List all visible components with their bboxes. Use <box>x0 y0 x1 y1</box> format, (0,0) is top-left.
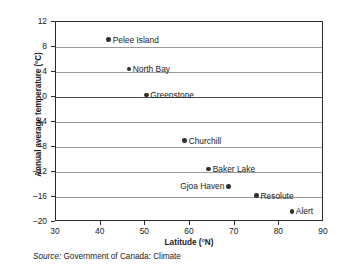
data-point-label: Pelee Island <box>113 36 159 44</box>
y-tick-label: –12 <box>13 167 47 175</box>
y-tick-label: –8 <box>13 142 47 150</box>
y-tick-label: 12 <box>13 17 47 25</box>
x-tick-mark <box>144 221 145 225</box>
data-point-marker <box>127 67 132 72</box>
y-tick-label: 8 <box>13 42 47 50</box>
data-point-label: Baker Lake <box>213 165 255 173</box>
y-tick-label: –4 <box>13 117 47 125</box>
data-point-marker <box>182 138 187 143</box>
source-label: Source: <box>33 252 61 261</box>
data-point-marker <box>206 167 211 172</box>
y-tick: –4 <box>0 121 47 122</box>
x-tick-label: 30 <box>35 226 75 236</box>
x-tick-label: 40 <box>80 226 120 236</box>
gridline <box>56 122 322 123</box>
x-tick-mark <box>100 221 101 225</box>
data-point-marker <box>144 93 149 98</box>
x-tick-mark <box>278 221 279 225</box>
data-point-label: Churchill <box>189 137 222 145</box>
y-tick: –12 <box>0 171 47 172</box>
plot-area: Pelee IslandNorth BayGreenstoneChurchill… <box>55 21 323 221</box>
y-tick-label: –20 <box>13 217 47 225</box>
source-value: Government of Canada: Climate <box>61 252 181 261</box>
y-tick: –8 <box>0 146 47 147</box>
x-tick-label: 60 <box>169 226 209 236</box>
y-tick: 4 <box>0 71 47 72</box>
data-point-marker <box>106 37 111 42</box>
data-point-marker <box>226 184 231 189</box>
data-point-label: Alert <box>296 207 313 215</box>
source-caption: Source: Government of Canada: Climate <box>33 252 181 261</box>
x-tick-label: 70 <box>214 226 254 236</box>
y-tick-mark <box>51 221 55 222</box>
gridline <box>56 172 322 173</box>
y-tick: –20 <box>0 221 47 222</box>
x-axis-title: Latitude (°N) <box>55 238 323 247</box>
scatter-chart-figure: Annual average temperature (°C) 12840–4–… <box>0 0 343 274</box>
x-tick-label: 80 <box>258 226 298 236</box>
x-tick-mark <box>189 221 190 225</box>
y-tick: 8 <box>0 46 47 47</box>
y-tick: 12 <box>0 21 47 22</box>
x-tick-mark <box>234 221 235 225</box>
y-tick: 0 <box>0 96 47 97</box>
data-point-marker <box>254 193 259 198</box>
data-point-label: Gjoa Haven <box>180 182 224 190</box>
x-tick-label: 50 <box>124 226 164 236</box>
gridline <box>56 147 322 148</box>
y-tick-label: 0 <box>13 92 47 100</box>
y-tick-label: 4 <box>13 67 47 75</box>
data-point-label: Greenstone <box>150 91 194 99</box>
data-point-label: North Bay <box>133 65 170 73</box>
data-point-label: Resolute <box>261 192 294 200</box>
y-tick: –16 <box>0 196 47 197</box>
gridline <box>56 47 322 48</box>
gridline <box>56 72 322 73</box>
data-point-marker <box>290 209 295 214</box>
x-tick-label: 90 <box>303 226 343 236</box>
y-tick-label: –16 <box>13 192 47 200</box>
